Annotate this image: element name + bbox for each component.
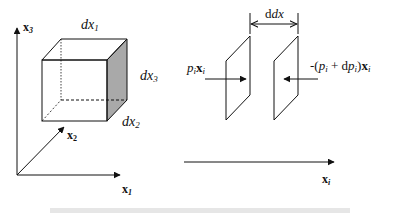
dx3-label: dx3: [140, 68, 158, 84]
pressure-plates-figure: ddx pixi -(pi + dpi)xi xi: [184, 6, 371, 187]
dx1-label: dx1: [81, 17, 99, 33]
dxi-label: ddx: [265, 6, 284, 21]
front-face: [42, 60, 107, 121]
right-force-label: -(pi + dpi)xi: [310, 58, 371, 74]
shaded-right-face: [107, 39, 127, 121]
x2-axis-label: x2: [67, 128, 77, 143]
left-plate: [226, 36, 250, 120]
volume-element-cube: dx1 dx3 dx2: [42, 17, 158, 130]
left-force-label: pixi: [186, 60, 206, 76]
figure-caption-clipped: [50, 208, 350, 213]
right-plate: [274, 36, 298, 120]
dx2-label: dx2: [122, 114, 140, 130]
x2-axis: [17, 127, 64, 175]
x3-axis-label: x3: [23, 20, 33, 35]
diagram-canvas: x3 x2 x1 dx1 dx3 dx2 ddx: [0, 0, 396, 213]
xi-axis-label: xi: [322, 172, 331, 187]
hidden-edge-depth: [42, 100, 61, 121]
x1-axis-label: x1: [122, 182, 132, 197]
